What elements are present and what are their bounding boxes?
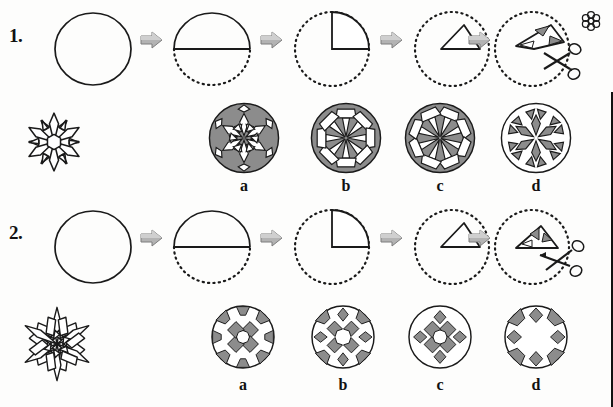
row-1-arrow-1 bbox=[140, 30, 164, 50]
row-2-option-d[interactable] bbox=[503, 304, 569, 370]
snowflake-result-2 bbox=[18, 301, 96, 387]
row-1-arrow-3 bbox=[380, 30, 404, 50]
row-1-option-d-label: d bbox=[521, 177, 551, 195]
row-1-arrow-4 bbox=[468, 30, 492, 50]
row-2-step-circle bbox=[52, 208, 134, 286]
row-2-option-d-label: d bbox=[521, 376, 551, 394]
rosette-flower-icon bbox=[578, 8, 604, 34]
row-2: 2. bbox=[0, 196, 613, 407]
row-1-option-c-label: c bbox=[425, 177, 455, 195]
row-2-number: 2. bbox=[9, 222, 22, 244]
row-2-step-half-fold bbox=[170, 208, 254, 286]
row-1-option-c[interactable] bbox=[404, 102, 476, 174]
row-2-option-b[interactable] bbox=[310, 304, 376, 370]
worksheet-page: 1. bbox=[0, 0, 613, 407]
row-1-step-circle bbox=[52, 10, 134, 88]
row-1-number: 1. bbox=[9, 25, 22, 47]
row-1-option-a-label: a bbox=[229, 177, 259, 195]
row-1-step-half-fold bbox=[170, 10, 254, 88]
row-1-option-b-label: b bbox=[331, 177, 361, 195]
row-2-arrow-3 bbox=[380, 228, 404, 248]
row-2-arrow-2 bbox=[260, 228, 284, 248]
row-1-option-b[interactable] bbox=[310, 102, 382, 174]
row-2-step-quarter-fold bbox=[290, 208, 374, 286]
scissors-icon bbox=[544, 42, 583, 81]
snowflake-result-1 bbox=[16, 104, 92, 180]
row-1-step-quarter-fold bbox=[290, 10, 374, 88]
row-2-arrow-1 bbox=[140, 228, 164, 248]
row-2-arrow-4 bbox=[468, 228, 492, 248]
row-2-step-cut bbox=[494, 206, 594, 290]
row-2-option-c[interactable] bbox=[407, 304, 473, 370]
row-1-option-a[interactable] bbox=[208, 102, 280, 174]
row-1: 1. bbox=[0, 0, 613, 196]
row-1-arrow-2 bbox=[260, 30, 284, 50]
row-2-option-a-label: a bbox=[228, 376, 258, 394]
row-2-option-a[interactable] bbox=[210, 304, 276, 370]
row-2-option-c-label: c bbox=[425, 376, 455, 394]
row-2-option-b-label: b bbox=[328, 376, 358, 394]
row-1-option-d[interactable] bbox=[500, 102, 572, 174]
